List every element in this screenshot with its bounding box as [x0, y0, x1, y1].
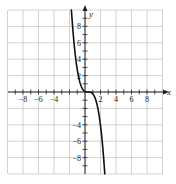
- x-tick-label: −8: [19, 95, 28, 104]
- axes: [8, 5, 169, 174]
- y-axis-label: y: [88, 9, 93, 19]
- x-tick-label: 2: [99, 95, 103, 104]
- x-tick-label: −4: [50, 95, 59, 104]
- x-tick-label: 4: [114, 95, 118, 104]
- y-tick-label: 6: [77, 39, 81, 48]
- y-tick-label: 4: [77, 55, 81, 64]
- cubic-graph: −8−6−424688642−4−6−8 x y: [0, 0, 176, 184]
- y-tick-label: −8: [72, 154, 81, 163]
- y-tick-label: −4: [72, 121, 81, 130]
- y-tick-label: 8: [77, 22, 81, 31]
- x-axis-label: x: [166, 87, 171, 97]
- x-tick-label: −6: [34, 95, 43, 104]
- x-tick-label: 6: [130, 95, 134, 104]
- y-tick-label: −6: [72, 137, 81, 146]
- x-tick-label: 8: [145, 95, 149, 104]
